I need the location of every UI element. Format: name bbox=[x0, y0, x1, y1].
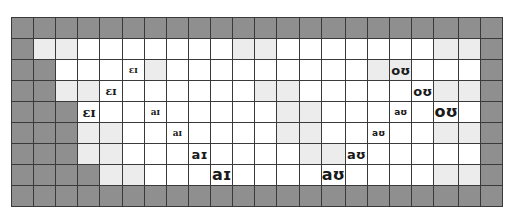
empty-cell bbox=[233, 81, 254, 101]
empty-cell bbox=[390, 165, 411, 185]
empty-cell bbox=[255, 123, 276, 143]
empty-cell bbox=[233, 123, 254, 143]
border-cell bbox=[56, 144, 77, 164]
border-cell bbox=[434, 186, 457, 206]
empty-cell bbox=[56, 60, 77, 80]
border-cell bbox=[56, 186, 77, 206]
empty-cell bbox=[459, 102, 480, 122]
border-cell bbox=[390, 18, 411, 38]
empty-cell bbox=[390, 144, 411, 164]
empty-cell bbox=[78, 60, 99, 80]
border-cell bbox=[346, 18, 367, 38]
border-cell bbox=[481, 39, 502, 59]
border-cell bbox=[346, 186, 367, 206]
empty-cell bbox=[189, 102, 210, 122]
empty-cell bbox=[412, 102, 433, 122]
empty-cell bbox=[255, 60, 276, 80]
border-cell bbox=[12, 165, 33, 185]
border-cell bbox=[78, 18, 99, 38]
empty-cell bbox=[189, 123, 210, 143]
empty-cell bbox=[459, 144, 480, 164]
diphthong-label-cell: oʊ bbox=[434, 102, 457, 122]
border-cell bbox=[481, 102, 502, 122]
border-cell bbox=[145, 18, 166, 38]
shaded-cell bbox=[277, 123, 298, 143]
empty-cell bbox=[300, 60, 321, 80]
empty-cell bbox=[412, 39, 433, 59]
border-cell bbox=[481, 60, 502, 80]
diphthong-label-cell: aɪ bbox=[145, 102, 166, 122]
shaded-cell bbox=[100, 123, 121, 143]
border-cell bbox=[481, 144, 502, 164]
shaded-cell bbox=[459, 39, 480, 59]
empty-cell bbox=[255, 102, 276, 122]
empty-cell bbox=[211, 102, 232, 122]
border-cell bbox=[322, 186, 345, 206]
empty-cell bbox=[123, 144, 144, 164]
empty-cell bbox=[459, 60, 480, 80]
border-cell bbox=[34, 18, 55, 38]
border-cell bbox=[78, 165, 99, 185]
border-cell bbox=[34, 123, 55, 143]
diphthong-label-cell: aʊ bbox=[390, 102, 411, 122]
shaded-cell bbox=[459, 81, 480, 101]
empty-cell bbox=[123, 123, 144, 143]
empty-cell bbox=[346, 60, 367, 80]
border-cell bbox=[300, 18, 321, 38]
empty-cell bbox=[322, 81, 345, 101]
shaded-cell bbox=[233, 39, 254, 59]
empty-cell bbox=[277, 60, 298, 80]
diphthong-label: aʊ bbox=[322, 167, 345, 183]
shaded-cell bbox=[368, 60, 389, 80]
diphthong-label-cell: ɛɪ bbox=[123, 60, 144, 80]
border-cell bbox=[459, 18, 480, 38]
diphthong-label: oʊ bbox=[434, 104, 457, 120]
border-cell bbox=[233, 186, 254, 206]
shaded-cell bbox=[459, 165, 480, 185]
diphthong-label-cell: ɛɪ bbox=[78, 102, 99, 122]
diphthong-label: aɪ bbox=[151, 108, 160, 117]
diphthong-label-cell: aʊ bbox=[368, 123, 389, 143]
shaded-cell bbox=[277, 102, 298, 122]
shaded-cell bbox=[145, 60, 166, 80]
shaded-cell bbox=[255, 81, 276, 101]
shaded-cell bbox=[255, 39, 276, 59]
diphthong-label-cell: aɪ bbox=[167, 123, 188, 143]
shaded-cell bbox=[434, 123, 457, 143]
border-cell bbox=[34, 186, 55, 206]
diphthong-label: aɪ bbox=[192, 148, 208, 161]
empty-cell bbox=[300, 39, 321, 59]
border-cell bbox=[412, 186, 433, 206]
empty-cell bbox=[346, 39, 367, 59]
shaded-cell bbox=[78, 144, 99, 164]
empty-cell bbox=[211, 81, 232, 101]
diphthong-label-cell: oʊ bbox=[390, 60, 411, 80]
empty-cell bbox=[368, 165, 389, 185]
shaded-cell bbox=[100, 165, 121, 185]
empty-cell bbox=[145, 144, 166, 164]
border-cell bbox=[34, 165, 55, 185]
empty-cell bbox=[145, 81, 166, 101]
empty-cell bbox=[390, 123, 411, 143]
empty-cell bbox=[322, 123, 345, 143]
diphthong-label-cell: oʊ bbox=[412, 81, 433, 101]
border-cell bbox=[56, 165, 77, 185]
border-cell bbox=[56, 18, 77, 38]
diphthong-grid: ɛɪoʊɛɪoʊɛɪaɪaʊoʊaɪaʊaɪaʊaɪaʊ bbox=[11, 17, 503, 207]
border-cell bbox=[145, 186, 166, 206]
border-cell bbox=[481, 186, 502, 206]
border-cell bbox=[481, 123, 502, 143]
empty-cell bbox=[390, 81, 411, 101]
shaded-cell bbox=[459, 123, 480, 143]
border-cell bbox=[233, 18, 254, 38]
empty-cell bbox=[412, 60, 433, 80]
border-cell bbox=[211, 18, 232, 38]
diphthong-label: oʊ bbox=[413, 85, 432, 98]
empty-cell bbox=[346, 165, 367, 185]
border-cell bbox=[34, 144, 55, 164]
border-cell bbox=[459, 186, 480, 206]
shaded-cell bbox=[100, 144, 121, 164]
empty-cell bbox=[322, 60, 345, 80]
empty-cell bbox=[189, 165, 210, 185]
border-cell bbox=[34, 102, 55, 122]
